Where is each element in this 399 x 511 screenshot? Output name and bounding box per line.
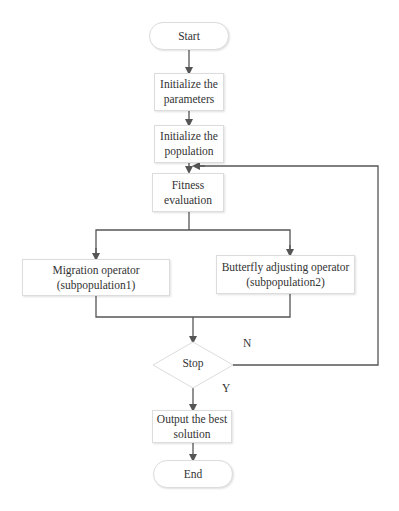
init-params-line2: parameters	[164, 92, 214, 107]
no-edge-label: N	[243, 337, 251, 349]
fitness-evaluation-node: Fitness evaluation	[152, 173, 224, 212]
migration-line1: Migration operator	[52, 263, 139, 278]
initialize-population-node: Initialize the population	[154, 125, 224, 163]
init-pop-line1: Initialize the	[160, 129, 218, 144]
butterfly-adjusting-operator-node: Butterfly adjusting operator (subpopulat…	[216, 255, 355, 294]
stop-label: Stop	[153, 357, 233, 369]
output-line1: Output the best	[157, 412, 227, 427]
migration-line2: (subpopulation1)	[57, 278, 136, 293]
start-label: Start	[178, 29, 200, 44]
start-node: Start	[149, 22, 229, 50]
initialize-parameters-node: Initialize the parameters	[154, 73, 224, 111]
init-params-line1: Initialize the	[160, 77, 218, 92]
init-pop-line2: population	[164, 144, 213, 159]
yes-edge-label: Y	[222, 382, 230, 394]
fitness-line1: Fitness	[172, 178, 205, 193]
output-best-solution-node: Output the best solution	[152, 410, 232, 443]
butterfly-line1: Butterfly adjusting operator	[222, 260, 350, 275]
end-node: End	[153, 460, 233, 488]
migration-operator-node: Migration operator (subpopulation1)	[22, 259, 170, 296]
output-line2: solution	[173, 427, 210, 442]
end-label: End	[184, 467, 203, 482]
fitness-line2: evaluation	[164, 193, 212, 208]
butterfly-line2: (subpopulation2)	[246, 275, 325, 290]
